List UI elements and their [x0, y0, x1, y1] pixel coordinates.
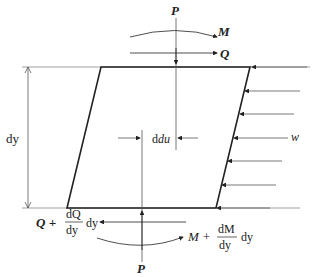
m-bottom-label: M + dM dy dy: [187, 222, 253, 252]
svg-text:dy: dy: [66, 223, 78, 237]
du-label: ddu: [152, 132, 170, 146]
svg-text:Q +: Q +: [36, 215, 56, 230]
svg-text:dQ: dQ: [66, 207, 81, 221]
svg-text:dy: dy: [241, 230, 253, 244]
p-bottom-label: P: [137, 261, 146, 276]
q-bottom-label: Q + dQ dy dy: [36, 207, 98, 237]
svg-text:dy: dy: [219, 238, 231, 252]
svg-text:dy: dy: [86, 216, 98, 230]
dy-label: dy: [6, 131, 20, 146]
m-top-label: M: [217, 24, 230, 39]
w-label: w: [291, 130, 299, 144]
p-top-label: P: [171, 3, 180, 18]
q-top-label: Q: [220, 46, 230, 61]
svg-text:dM: dM: [218, 222, 235, 236]
m-top-arrow-icon: [130, 31, 217, 38]
m-bottom-arrow-icon: [97, 237, 183, 245]
beam-element-diagram: dy P M Q P ddu w Q + dQ dy dy M + dM d: [0, 0, 315, 277]
svg-text:M +: M +: [187, 229, 211, 244]
